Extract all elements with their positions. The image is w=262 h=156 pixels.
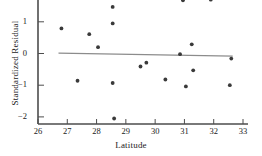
y-axis-ticks	[38, 22, 44, 117]
y-tick-label: −2	[11, 111, 27, 121]
zero-residual-fit-line	[59, 53, 233, 56]
x-tick-label: 27	[57, 126, 77, 136]
y-tick-label: 1	[11, 16, 27, 26]
axes-group	[38, 0, 248, 124]
data-point	[96, 45, 100, 49]
data-point	[60, 27, 64, 31]
data-point	[190, 42, 194, 46]
data-point	[181, 0, 185, 2]
data-point	[76, 79, 80, 83]
fit-line-segment	[59, 53, 233, 56]
data-point	[111, 5, 115, 9]
data-point	[139, 65, 143, 69]
x-tick-label: 33	[233, 126, 253, 136]
x-tick-label: 31	[174, 126, 194, 136]
x-tick-label: 32	[204, 126, 224, 136]
data-point	[229, 57, 233, 61]
data-point	[112, 117, 116, 121]
y-tick-label: −1	[11, 79, 27, 89]
data-point	[163, 78, 167, 82]
y-tick-label: 0	[11, 48, 27, 58]
y-axis-title: Standardized Residual	[10, 15, 20, 111]
data-point	[209, 0, 213, 2]
data-point	[228, 83, 232, 87]
data-point	[111, 21, 115, 25]
data-point	[87, 32, 91, 36]
data-point-group	[60, 0, 234, 120]
data-point	[178, 52, 182, 56]
x-tick-label: 30	[145, 126, 165, 136]
x-tick-label: 29	[116, 126, 136, 136]
data-point	[111, 81, 115, 85]
x-tick-label: 28	[87, 126, 107, 136]
x-tick-label: 26	[28, 126, 48, 136]
data-point	[184, 85, 188, 89]
x-axis-title: Latitude	[0, 140, 262, 150]
data-point	[144, 61, 148, 65]
data-point	[191, 68, 195, 72]
residual-scatter-plot-figure: Standardized Residual Latitude 262728293…	[0, 0, 262, 156]
